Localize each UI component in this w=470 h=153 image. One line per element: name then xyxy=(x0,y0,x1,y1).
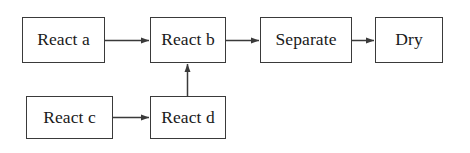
node-react-d[interactable]: React d xyxy=(150,96,226,139)
node-dry[interactable]: Dry xyxy=(375,17,443,63)
node-react-c-label: React c xyxy=(43,108,96,126)
node-react-a-label: React a xyxy=(37,31,90,49)
node-react-d-label: React d xyxy=(161,108,215,126)
node-dry-label: Dry xyxy=(395,31,423,49)
node-react-b[interactable]: React b xyxy=(150,17,226,63)
node-separate[interactable]: Separate xyxy=(260,17,352,63)
node-react-b-label: React b xyxy=(161,31,215,49)
node-separate-label: Separate xyxy=(275,31,336,49)
node-react-c[interactable]: React c xyxy=(26,96,113,139)
node-react-a[interactable]: React a xyxy=(22,17,105,63)
flow-diagram: React a React b Separate Dry React c Rea… xyxy=(0,0,470,153)
